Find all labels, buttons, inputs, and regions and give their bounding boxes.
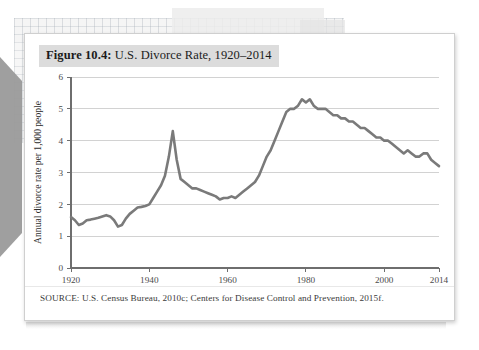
- y-tick-label: 6: [58, 72, 63, 82]
- figure-card: Figure 10.4: U.S. Divorce Rate, 1920–201…: [24, 33, 455, 321]
- gridlines: [71, 77, 439, 236]
- data-line: [71, 99, 439, 226]
- x-tick-label: 1980: [297, 275, 316, 285]
- y-tick-label: 1: [58, 231, 63, 241]
- divorce-rate-line-chart: 0123456 192019401960198020002014 Annual …: [25, 34, 456, 322]
- x-tick-label: 2014: [430, 275, 449, 285]
- y-tick-label: 2: [58, 200, 63, 210]
- y-axis-label: Annual divorce rate per 1,000 people: [32, 101, 43, 244]
- y-tick-label: 3: [58, 168, 63, 178]
- paper-smudge-secondary: [300, 20, 345, 34]
- x-tick-label: 1920: [62, 275, 81, 285]
- y-axis-ticks: 0123456: [58, 72, 71, 273]
- gray-wedge-shape: [0, 57, 22, 257]
- x-axis-ticks: 192019401960198020002014: [62, 268, 449, 285]
- y-axis-title: Annual divorce rate per 1,000 people: [32, 101, 43, 244]
- x-tick-label: 2000: [375, 275, 394, 285]
- series-line-divorce-rate: [71, 99, 439, 226]
- bottom-shadow-smudge: [26, 322, 446, 329]
- y-tick-label: 5: [58, 104, 63, 114]
- x-tick-label: 1960: [218, 275, 237, 285]
- source-divider: [25, 286, 454, 287]
- chart-plot-area: 0123456 192019401960198020002014 Annual …: [25, 34, 456, 322]
- y-tick-label: 4: [58, 136, 63, 146]
- source-note: SOURCE: U.S. Census Bureau, 2010c; Cente…: [40, 293, 384, 303]
- x-tick-label: 1940: [140, 275, 159, 285]
- y-tick-label: 0: [58, 263, 63, 273]
